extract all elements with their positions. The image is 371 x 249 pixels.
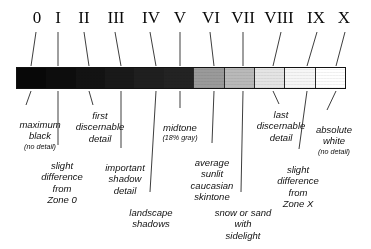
leader-line-absolute-white (327, 91, 336, 110)
leader-line-maximum-black (26, 91, 31, 105)
bar-segment-zone-8 (255, 68, 285, 88)
caption-slight-difference-zone0-main: slight difference from Zone 0 (41, 160, 83, 206)
zone-numeral-2: II (78, 9, 89, 26)
zone-numeral-10: X (338, 9, 350, 26)
leader-line-zone-6 (210, 32, 214, 66)
zone-numeral-5: V (174, 9, 186, 26)
leader-line-zone-10 (336, 32, 345, 66)
zone-numeral-0: 0 (33, 9, 42, 26)
bar-segment-zone-2 (76, 68, 105, 88)
caption-absolute-white: absolute white (no detail) (316, 112, 352, 167)
bar-segment-zone-5 (164, 68, 194, 88)
zone-numeral-1: I (55, 9, 61, 26)
leader-line-zone-8 (273, 32, 281, 66)
zone-numeral-6: VI (202, 9, 220, 26)
caption-midtone-main: midtone (163, 122, 197, 133)
caption-important-shadow: important shadow detail (105, 150, 145, 196)
gray-scale-bar (16, 67, 346, 89)
bar-segment-zone-4 (134, 68, 163, 88)
bar-segment-zone-3 (105, 68, 134, 88)
leader-line-zone-4 (150, 32, 156, 66)
bar-segment-zone-9 (285, 68, 315, 88)
leader-line-zone-2 (84, 32, 89, 66)
caption-last-discernable: last discernable detail (257, 97, 306, 143)
caption-average-skintone: average sunlit caucasian skintone (191, 145, 234, 203)
bar-segment-zone-10 (316, 68, 345, 88)
caption-landscape-shadows-main: landscape shadows (129, 207, 172, 230)
caption-slight-difference-zonex-main: slight difference from Zone X (277, 164, 319, 210)
caption-maximum-black-main: maximum black (19, 119, 60, 142)
caption-midtone-sub: (18% gray) (162, 133, 197, 142)
caption-snow-or-sand: snow or sand with sidelight (215, 195, 272, 241)
zone-system-diagram: 0 I II III IV V VI VII VIII IX X (0, 0, 371, 249)
zone-numeral-7: VII (231, 9, 255, 26)
caption-slight-difference-zonex: slight difference from Zone X (277, 152, 319, 210)
leader-line-zone-0 (31, 32, 36, 66)
leader-line-average-skintone (212, 91, 214, 143)
zone-numeral-4: IV (142, 9, 160, 26)
caption-slight-difference-zone0: slight difference from Zone 0 (41, 148, 83, 206)
caption-first-discernable-main: first discernable detail (76, 110, 125, 144)
bar-segment-zone-6 (194, 68, 224, 88)
caption-absolute-white-sub: (no detail) (316, 147, 352, 156)
bar-segment-zone-0 (17, 68, 46, 88)
leader-line-landscape-shadows (150, 91, 156, 192)
bar-segment-zone-7 (225, 68, 255, 88)
caption-snow-or-sand-main: snow or sand with sidelight (215, 207, 272, 241)
caption-important-shadow-main: important shadow detail (105, 162, 145, 196)
caption-last-discernable-main: last discernable detail (257, 109, 306, 143)
leader-line-snow-or-sand (241, 91, 243, 192)
zone-numeral-8: VIII (264, 9, 293, 26)
zone-numeral-9: IX (307, 9, 325, 26)
caption-first-discernable: first discernable detail (76, 98, 125, 144)
caption-landscape-shadows: landscape shadows (129, 195, 172, 230)
leader-line-zone-9 (307, 32, 317, 66)
zone-numeral-3: III (108, 9, 125, 26)
bar-segment-zone-1 (46, 68, 75, 88)
leader-line-zone-3 (115, 32, 121, 66)
caption-absolute-white-main: absolute white (316, 124, 352, 147)
